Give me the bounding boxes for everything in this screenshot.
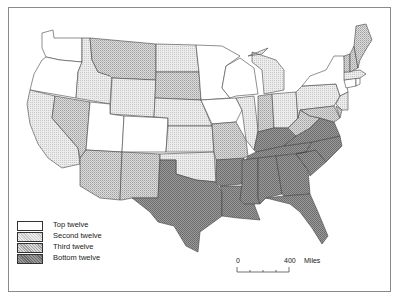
scale-end-label: 400 xyxy=(284,257,296,264)
state-WY xyxy=(110,78,156,117)
state-CO xyxy=(122,116,168,152)
state-AZ xyxy=(80,150,122,200)
state-AR xyxy=(216,158,244,186)
legend-label: Second twelve xyxy=(53,231,102,240)
state-ND xyxy=(156,44,199,72)
scale-bar: 0 400 Miles xyxy=(236,258,316,278)
legend-label: Top twelve xyxy=(53,220,88,229)
state-NM xyxy=(120,152,160,200)
legend-swatch-third xyxy=(17,243,43,253)
state-MO xyxy=(212,122,248,160)
legend-label: Third twelve xyxy=(53,242,93,251)
state-FL xyxy=(266,194,328,244)
state-ME xyxy=(354,24,372,68)
scale-ruler-icon xyxy=(236,266,296,278)
state-SD xyxy=(155,72,201,100)
legend-swatch-second xyxy=(17,232,43,242)
state-MS xyxy=(240,158,260,204)
scale-unit-label: Miles xyxy=(304,257,320,264)
legend-swatch-bottom xyxy=(17,254,43,264)
scale-start-label: 0 xyxy=(236,257,240,264)
state-VT xyxy=(344,54,350,72)
legend-label: Bottom twelve xyxy=(53,253,100,262)
legend-swatch-top xyxy=(17,221,43,231)
state-RI xyxy=(356,78,360,86)
state-IN xyxy=(258,94,274,132)
state-KS xyxy=(166,126,214,152)
